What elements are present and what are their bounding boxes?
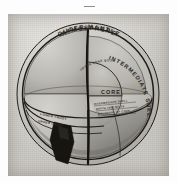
top-dash-mark — [84, 6, 95, 7]
page-background: ATMOSPHERE OUTER MANTLE INTERMEDIATE SHE… — [0, 0, 177, 183]
plate-vignette — [8, 14, 169, 176]
illustration-plate: ATMOSPHERE OUTER MANTLE INTERMEDIATE SHE… — [8, 14, 169, 176]
